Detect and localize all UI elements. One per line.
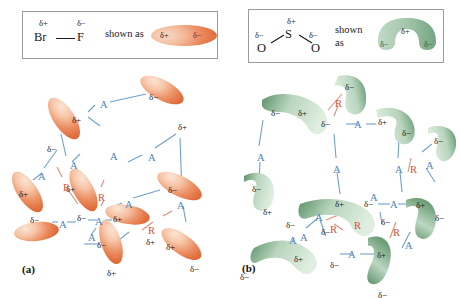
panel-a-interaction-7: A [59, 219, 67, 230]
panel-a-interaction-5: R [63, 182, 70, 193]
panel-a-charge-3: δ− [47, 144, 56, 154]
legend-a-shown-as: shown as [105, 28, 144, 39]
panel-b-charge-4: δ+ [378, 117, 387, 127]
panel-b-interaction-8: R [330, 224, 337, 235]
panel-b-charge-16: δ+ [294, 254, 303, 264]
panel-a-interaction-9: A [125, 199, 133, 210]
figure-root: δ+ δ− Br F shown as δ+ δ− δ+ S δ− O δ− O… [0, 0, 460, 298]
panel-a-interaction-0: A [100, 99, 108, 110]
panel-b-interaction-9: A [300, 232, 308, 243]
legend-a-delta-minus: δ− [77, 18, 86, 28]
legend-a-bond [56, 38, 75, 39]
panel-a-charge-10: δ+ [146, 237, 155, 247]
panel-b-interaction-10: A [370, 192, 378, 203]
panel-a-interaction-10: A [177, 200, 185, 211]
panel-a-interaction-6: A [95, 216, 103, 227]
legend-b-shown-line2: as [335, 37, 344, 48]
panel-b-charge-0: δ− [345, 82, 354, 92]
panel-a-charge-12: δ+ [107, 268, 116, 278]
panel-b-interaction-13: A [289, 235, 297, 246]
panel-a-charge-9: δ− [168, 185, 177, 195]
panel-b-interaction-1: A [354, 119, 362, 130]
panel-b-interaction-4: A [395, 164, 403, 175]
so2-legend-box: δ+ S δ− O δ− O shown as [248, 9, 444, 63]
panel-b-interaction-0: R [335, 98, 342, 109]
legend-a-atom-br: Br [34, 30, 47, 45]
panel-b-molecules [230, 72, 460, 298]
panel-b-charge-12: δ− [321, 227, 330, 237]
panel-b-charge-17: δ− [330, 260, 339, 270]
panel-b-interaction-11: R [393, 227, 400, 238]
panel-b-interaction-5: R [410, 164, 417, 175]
panel-a-charge-8: δ+ [113, 214, 122, 224]
panel-a-brf-network: δ−δ+δ+δ−δ+δ−δ+δ−δ+δ−δ+δ−δ+δ+δ− AAAAARAAR… [0, 72, 230, 298]
panel-b-interaction-3: A [333, 164, 341, 175]
panel-a-interaction-2: A [70, 160, 78, 171]
panel-a-charge-2: δ+ [72, 115, 81, 125]
panel-a-interaction-11: A [88, 232, 96, 243]
panel-a-charge-5: δ− [30, 215, 39, 225]
panel-b-interaction-16: A [405, 240, 413, 251]
legend-b-model-minus-right: δ− [424, 39, 433, 49]
panel-b-charge-14: δ− [381, 217, 390, 227]
panel-a-charge-14: δ− [190, 264, 199, 274]
panel-b-charge-11: δ+ [416, 200, 425, 210]
panel-b-interaction-14: A [315, 212, 323, 223]
panel-b-interaction-15: R [354, 220, 361, 231]
legend-a-delta-plus: δ+ [39, 18, 48, 28]
panel-a-interaction-1: A [110, 151, 118, 162]
legend-a-atom-f: F [77, 30, 84, 45]
panel-a-interaction-3: A [38, 171, 46, 182]
panel-a-interaction-12: R [148, 225, 155, 236]
panel-b-charge-19: δ+ [377, 250, 386, 260]
legend-a-model-plus: δ+ [160, 30, 169, 40]
panel-a-charge-11: δ− [97, 240, 106, 250]
panel-b-charge-6: δ− [434, 136, 443, 146]
panel-b-charge-1: δ− [271, 108, 280, 118]
panel-b-interaction-2: A [257, 152, 265, 163]
panel-b-charge-9: δ+ [335, 199, 344, 209]
legend-b-shown-line1: shown [335, 24, 362, 35]
panel-b-interaction-7: A [390, 199, 398, 210]
panel-a-charge-4: δ+ [19, 189, 28, 199]
panel-b-charge-7: δ− [252, 184, 261, 194]
panel-a-interaction-8: R [98, 192, 105, 203]
panel-b-charge-20: δ− [378, 290, 387, 298]
panel-b-so2-network: δ−δ−δ+δ−δ+δ−δ−δ−δ+δ+δ−δ+δ−δ−δ−δ−δ+δ−δ−δ+… [230, 72, 460, 298]
legend-a-model-minus: δ− [193, 30, 202, 40]
panel-a-charge-7: δ− [77, 213, 86, 223]
panel-b-caption: (b) [242, 262, 255, 274]
panel-a-charge-13: δ+ [166, 242, 175, 252]
panel-a-interaction-4: A [148, 152, 156, 163]
panel-a-caption: (a) [22, 263, 35, 275]
panel-a-charge-1: δ+ [178, 122, 187, 132]
panel-b-charge-8: δ+ [263, 207, 272, 217]
panel-a-charge-0: δ− [149, 92, 158, 102]
brf-legend-box: δ+ δ− Br F shown as δ+ δ− [22, 11, 218, 59]
panel-b-charge-2: δ+ [298, 108, 307, 118]
legend-b-model-minus-left: δ− [380, 39, 389, 49]
legend-b-model-plus: δ+ [401, 26, 410, 36]
panel-b-charge-5: δ− [402, 128, 411, 138]
panel-b-charge-3: δ− [321, 119, 330, 129]
panel-b-charge-15: δ− [435, 213, 444, 223]
panel-b-charge-13: δ− [286, 220, 295, 230]
panel-b-interaction-12: A [348, 249, 356, 260]
panel-b-interaction-6: A [426, 160, 434, 171]
